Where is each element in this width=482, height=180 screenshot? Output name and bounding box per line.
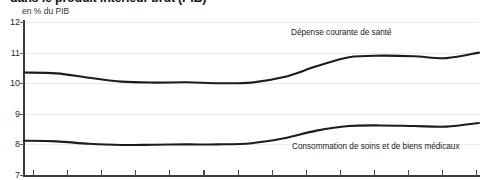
series-label-depense-courante-de-sante: Dépense courante de santé xyxy=(291,28,392,37)
chart-container: dans le produit intérieur brut (PIB) en … xyxy=(0,0,482,180)
series-label-consommation-soins-biens-medicaux: Consommation de soins et de biens médica… xyxy=(292,142,459,151)
series-line-depense-courante-de-sante xyxy=(24,53,479,84)
series-layer xyxy=(0,0,482,180)
